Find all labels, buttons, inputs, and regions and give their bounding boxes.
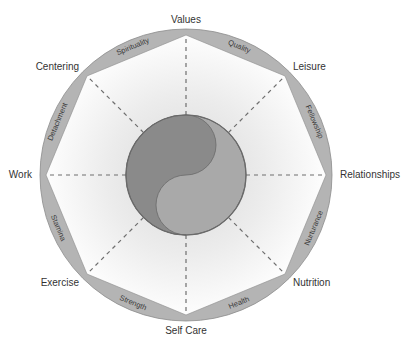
- node-label-values: Values: [171, 14, 201, 25]
- node-label-self-care: Self Care: [165, 325, 207, 336]
- node-label-nutrition: Nutrition: [293, 277, 330, 288]
- node-label-relationships: Relationships: [340, 169, 400, 180]
- yin-yang-symbol: [126, 115, 246, 235]
- wellness-wheel-diagram: QualityFellowshipNurturanceHealthStrengt…: [0, 0, 401, 345]
- node-label-work: Work: [9, 169, 33, 180]
- node-label-exercise: Exercise: [41, 277, 80, 288]
- node-label-centering: Centering: [36, 61, 79, 72]
- node-label-leisure: Leisure: [293, 61, 326, 72]
